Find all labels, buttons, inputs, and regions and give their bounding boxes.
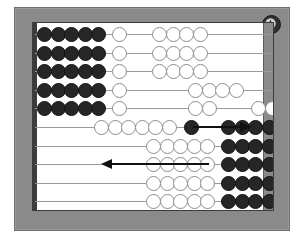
abacus-bead-black[interactable] [91,64,106,79]
abacus-bead-black[interactable] [248,194,263,209]
abacus-bead-white[interactable] [112,83,127,98]
abacus-bead-black[interactable] [262,139,274,154]
abacus-bead-white[interactable] [112,64,127,79]
abacus-bead-black[interactable] [64,46,79,61]
arrow-left-icon [101,159,209,169]
abacus-bead-black[interactable] [248,176,263,191]
abacus-bead-white[interactable] [162,120,177,135]
abacus-bead-black[interactable] [91,83,106,98]
abacus-bead-black[interactable] [37,64,52,79]
abacus-bead-white[interactable] [152,46,167,61]
abacus-bead-white[interactable] [200,139,215,154]
abacus-bead-black[interactable] [91,101,106,116]
abacus-bead-black[interactable] [37,101,52,116]
abacus-bead-white[interactable] [202,101,217,116]
abacus-row [33,26,274,44]
abacus-bead-white[interactable] [146,139,161,154]
abacus-bead-white[interactable] [200,176,215,191]
abacus-illustration: A [0,0,300,239]
abacus-board [32,22,274,211]
abacus-bead-black[interactable] [37,46,52,61]
abacus-bead-black[interactable] [91,46,106,61]
abacus-bead-black[interactable] [262,157,274,172]
abacus-bead-white[interactable] [179,64,194,79]
abacus-bead-white[interactable] [152,64,167,79]
abacus-bead-white[interactable] [179,46,194,61]
abacus-bead-white[interactable] [179,27,194,42]
abacus-bead-black[interactable] [37,83,52,98]
abacus-bead-white[interactable] [193,46,208,61]
abacus-bead-white[interactable] [112,27,127,42]
abacus-bead-white[interactable] [193,64,208,79]
logo-label: A [263,16,264,17]
abacus-bead-white[interactable] [188,83,203,98]
abacus-bead-black[interactable] [248,139,263,154]
abacus-bead-white[interactable] [121,120,136,135]
abacus-row [33,138,274,156]
abacus-bead-white[interactable] [112,101,127,116]
abacus-row [33,45,274,63]
abacus-bead-white[interactable] [193,27,208,42]
abacus-bead-white[interactable] [94,120,109,135]
abacus-bead-white[interactable] [229,83,244,98]
abacus-bead-white[interactable] [215,83,230,98]
abacus-bead-black[interactable] [221,176,236,191]
abacus-bead-white[interactable] [200,194,215,209]
abacus-row [33,100,274,118]
abacus-bead-white[interactable] [188,101,203,116]
abacus-bead-black[interactable] [262,120,274,135]
abacus-bead-black[interactable] [64,64,79,79]
abacus-bead-black[interactable] [221,157,236,172]
arrow-right-icon [193,122,251,132]
abacus-bead-white[interactable] [173,176,188,191]
abacus-bead-white[interactable] [146,194,161,209]
abacus-bead-black[interactable] [262,176,274,191]
abacus-bead-white[interactable] [173,139,188,154]
abacus-row [33,82,274,100]
abacus-bead-black[interactable] [91,27,106,42]
abacus-row [33,193,274,211]
abacus-bead-black[interactable] [64,83,79,98]
abacus-bead-black[interactable] [262,194,274,209]
abacus-bead-white[interactable] [146,176,161,191]
abacus-bead-white[interactable] [251,101,266,116]
abacus-row [33,175,274,193]
abacus-bead-black[interactable] [64,27,79,42]
abacus-bead-white[interactable] [112,46,127,61]
abacus-bead-black[interactable] [221,139,236,154]
abacus-row [33,63,274,81]
abacus-frame: A [14,7,290,231]
abacus-bead-white[interactable] [173,194,188,209]
abacus-bead-black[interactable] [37,27,52,42]
abacus-bead-white[interactable] [265,101,274,116]
abacus-bead-black[interactable] [248,157,263,172]
abacus-bead-black[interactable] [64,101,79,116]
abacus-bead-white[interactable] [152,27,167,42]
abacus-bead-black[interactable] [221,194,236,209]
